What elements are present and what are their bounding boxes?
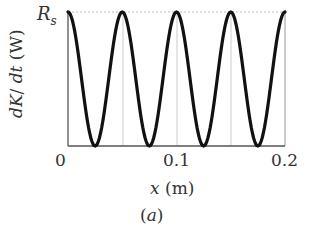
- x-axis-label: x (m): [150, 178, 194, 198]
- x-tick-0.2: 0.2: [271, 150, 298, 170]
- caption-open-paren: (: [140, 205, 147, 225]
- ylabel-dt: dt: [6, 66, 26, 84]
- caption-close-paren: ): [157, 205, 164, 225]
- xlabel-var: x: [150, 178, 160, 198]
- y-tick-rs: Rs: [37, 3, 57, 28]
- rs-subscript: s: [51, 14, 57, 28]
- y-axis-label: dK/ dt (W): [6, 29, 26, 118]
- figure-caption: (a): [140, 205, 163, 225]
- plot-area: [0, 0, 313, 239]
- ylabel-dk: dK: [6, 94, 26, 118]
- x-tick-0.1: 0.1: [163, 150, 190, 170]
- rs-text: R: [37, 3, 51, 24]
- x-tick-0: 0: [55, 150, 66, 170]
- xlabel-unit: (m): [160, 178, 195, 198]
- caption-letter: a: [147, 205, 157, 225]
- ylabel-unit: (W): [6, 29, 26, 65]
- ylabel-slash: /: [6, 83, 26, 94]
